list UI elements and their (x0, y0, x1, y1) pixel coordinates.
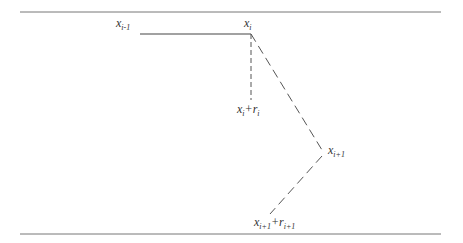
label-x-i-plus-1: xi+1 (328, 143, 345, 159)
dashed-segment-xi+1-to-xi+1-ri+1 (270, 156, 322, 214)
label-x-i: xi (244, 16, 252, 32)
label-x-i-plus-1-plus-r-i-plus-1: xi+1+ri+1 (254, 215, 295, 231)
label-x-i-plus-r-i: xi+ri (237, 102, 260, 118)
diagram-canvas (0, 0, 463, 243)
dashed-segment-xi-to-xi+1 (251, 34, 322, 150)
label-x-i-minus-1: xi-1 (116, 16, 130, 32)
